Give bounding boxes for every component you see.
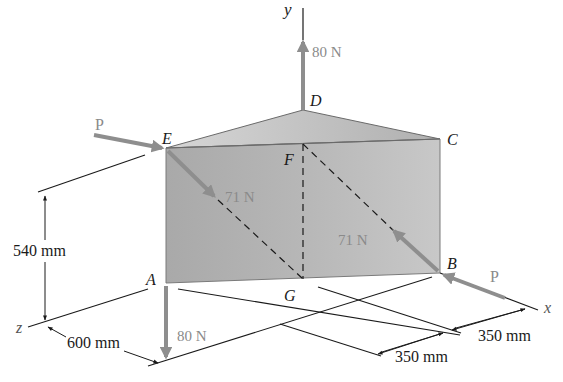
label-dim-600: 600 mm bbox=[67, 334, 120, 351]
statics-diagram: y D E C F A G B z x 80 N 80 N P P 71 N 7… bbox=[0, 0, 563, 382]
label-point-g: G bbox=[284, 287, 296, 304]
diagram-canvas: y D E C F A G B z x 80 N 80 N P P 71 N 7… bbox=[0, 0, 563, 382]
label-dim-540: 540 mm bbox=[13, 242, 66, 259]
label-y-axis: y bbox=[282, 0, 292, 19]
label-point-b: B bbox=[447, 255, 457, 272]
label-force-71n-right: 71 N bbox=[338, 232, 368, 248]
label-force-p-left: P bbox=[95, 116, 104, 133]
label-dim-350-near: 350 mm bbox=[395, 348, 448, 365]
label-point-f: F bbox=[283, 151, 294, 168]
ground-line-1 bbox=[280, 324, 381, 356]
label-x-axis: x bbox=[543, 299, 551, 316]
label-z-axis: z bbox=[15, 319, 23, 336]
label-dim-350-far: 350 mm bbox=[478, 327, 531, 344]
label-force-80n-bottom: 80 N bbox=[177, 328, 207, 344]
label-point-a: A bbox=[145, 271, 156, 288]
label-force-71n-left: 71 N bbox=[225, 189, 255, 205]
label-force-80n-top: 80 N bbox=[312, 44, 342, 60]
dim-600-leader-b bbox=[124, 351, 158, 363]
label-point-c: C bbox=[447, 131, 458, 148]
force-p-left-arrow bbox=[94, 135, 162, 148]
dim-600-leader-a bbox=[48, 327, 66, 337]
label-point-d: D bbox=[309, 92, 322, 109]
ext-line-e bbox=[38, 155, 145, 192]
z-axis-line bbox=[28, 289, 148, 327]
label-point-e: E bbox=[161, 130, 172, 147]
label-force-p-right: P bbox=[490, 268, 499, 285]
ground-line-2 bbox=[318, 287, 461, 333]
